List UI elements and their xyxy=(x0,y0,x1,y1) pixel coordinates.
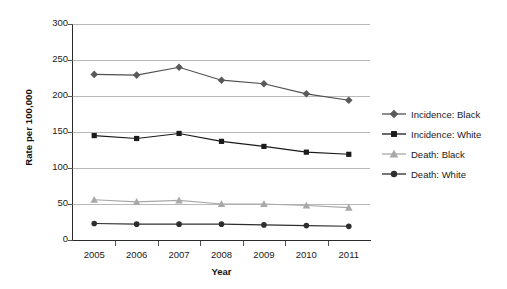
data-point xyxy=(260,80,268,88)
x-axis-tick-mark xyxy=(285,241,286,246)
legend-item[interactable]: Death: Black xyxy=(381,144,505,164)
x-axis-tick-label: 2010 xyxy=(283,249,329,260)
y-axis-tick-label: 0 xyxy=(22,233,68,244)
y-axis-tick-mark xyxy=(68,168,73,169)
data-point xyxy=(134,136,139,141)
data-point xyxy=(90,71,98,79)
legend-label: Death: Black xyxy=(407,149,465,160)
x-axis-tick-label: 2011 xyxy=(326,249,372,260)
data-point xyxy=(345,97,353,105)
x-axis-title: Year xyxy=(73,266,370,277)
data-point xyxy=(304,223,310,229)
data-point xyxy=(176,221,182,227)
x-axis-tick-mark xyxy=(200,241,201,246)
legend-marker-square-icon xyxy=(381,127,407,141)
data-point xyxy=(92,133,97,138)
x-axis-tick-label: 2006 xyxy=(114,249,160,260)
legend-marker-circle-icon xyxy=(381,167,407,181)
data-point xyxy=(261,144,266,149)
y-axis-tick-mark xyxy=(68,240,73,241)
y-axis-tick-mark xyxy=(68,204,73,205)
data-point xyxy=(261,222,267,228)
chart-legend: Incidence: BlackIncidence: WhiteDeath: B… xyxy=(381,104,505,184)
x-axis-tick-mark xyxy=(243,241,244,246)
series-3 xyxy=(90,196,352,211)
data-point xyxy=(218,76,226,84)
x-axis-tick-mark xyxy=(328,241,329,246)
y-axis-tick-labels: 050100150200250300 xyxy=(22,0,68,289)
legend-item[interactable]: Incidence: White xyxy=(381,124,505,144)
series-1 xyxy=(90,63,352,104)
y-axis-tick-mark xyxy=(68,60,73,61)
x-axis-tick-label: 2008 xyxy=(199,249,245,260)
legend-label: Death: White xyxy=(407,169,466,180)
x-axis-tick-mark xyxy=(115,241,116,246)
data-point xyxy=(346,152,351,157)
y-axis-tick-label: 250 xyxy=(22,53,68,64)
y-axis-tick-label: 200 xyxy=(22,89,68,100)
data-point xyxy=(303,90,311,98)
series-4 xyxy=(91,221,351,229)
x-axis-line xyxy=(72,240,371,241)
y-axis-tick-label: 150 xyxy=(22,125,68,136)
legend-marker-triangle-icon xyxy=(381,147,407,161)
data-point xyxy=(134,221,140,227)
data-point xyxy=(175,63,183,71)
y-axis-tick-mark xyxy=(68,24,73,25)
x-axis-tick-label: 2007 xyxy=(156,249,202,260)
series-2 xyxy=(92,131,352,157)
y-axis-tick-label: 300 xyxy=(22,17,68,28)
series-layer xyxy=(73,24,370,240)
data-point xyxy=(91,221,97,227)
y-axis-tick-label: 50 xyxy=(22,197,68,208)
data-point xyxy=(133,71,141,79)
x-axis-tick-label: 2009 xyxy=(241,249,287,260)
data-point xyxy=(176,131,181,136)
data-point xyxy=(304,150,309,155)
legend-label: Incidence: White xyxy=(407,129,481,140)
data-point xyxy=(219,221,225,227)
data-point xyxy=(346,224,352,230)
legend-label: Incidence: Black xyxy=(407,109,480,120)
y-axis-tick-label: 100 xyxy=(22,161,68,172)
legend-item[interactable]: Incidence: Black xyxy=(381,104,505,124)
legend-marker-diamond-icon xyxy=(381,107,407,121)
line-chart: Rate per 100,000 050100150200250300 2005… xyxy=(0,0,507,289)
y-axis-tick-mark xyxy=(68,96,73,97)
legend-item[interactable]: Death: White xyxy=(381,164,505,184)
x-axis-tick-mark xyxy=(158,241,159,246)
data-point xyxy=(219,139,224,144)
y-axis-tick-mark xyxy=(68,132,73,133)
x-axis-tick-label: 2005 xyxy=(71,249,117,260)
